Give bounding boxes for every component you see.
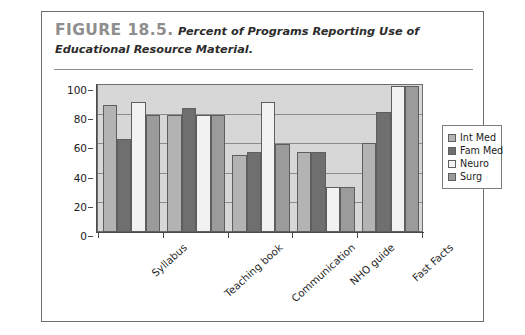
x-axis-tick-label: Communication [289, 241, 357, 304]
bar [362, 143, 376, 232]
y-axis-tick-mark [88, 236, 93, 237]
bar-group [229, 86, 294, 232]
y-axis-tick-mark [88, 148, 93, 149]
y-axis-tick-mark [88, 178, 93, 179]
plot-background [97, 84, 423, 232]
bar [232, 155, 246, 232]
bar-chart: 020406080100 SyllabusTeaching bookCommun… [55, 78, 472, 308]
bar [376, 112, 390, 232]
figure-number: FIGURE 18.5. [55, 21, 174, 39]
figure-frame: FIGURE 18.5. Percent of Programs Reporti… [41, 11, 484, 322]
y-axis-tick-label: 40 [74, 172, 87, 184]
y-axis-tick-label: 80 [74, 113, 87, 125]
bar [211, 115, 225, 232]
y-axis-tick-label: 0 [80, 230, 87, 242]
y-axis-tick-label: 60 [74, 142, 87, 154]
legend-label: Int Med [460, 132, 496, 143]
y-axis-tick-mark [88, 90, 93, 91]
bar [117, 139, 131, 232]
bar [391, 86, 405, 232]
chart-legend: Int MedFam MedNeuroSurg [442, 125, 502, 189]
bar [326, 187, 340, 232]
bar [261, 102, 275, 232]
bar-group [358, 86, 423, 232]
x-axis-line [97, 232, 424, 233]
x-axis-tick-mark [422, 233, 423, 238]
bar [247, 152, 261, 232]
bar-group [293, 86, 358, 232]
bar [167, 115, 181, 232]
y-axis: 020406080100 [55, 84, 93, 232]
bar [146, 115, 160, 232]
bar [103, 105, 117, 232]
legend-item: Fam Med [448, 144, 497, 157]
bar [275, 144, 289, 232]
bar [405, 86, 419, 232]
legend-swatch-icon [448, 160, 456, 168]
legend-item: Int Med [448, 131, 497, 144]
bar-group [164, 86, 229, 232]
x-axis-tick-mark [357, 233, 358, 238]
x-axis-tick-mark [292, 233, 293, 238]
x-axis-tick-mark [228, 233, 229, 238]
legend-item: Surg [448, 170, 497, 183]
y-axis-tick-label: 100 [67, 84, 87, 96]
x-axis-tick-mark [98, 233, 99, 238]
bars-layer [99, 86, 423, 232]
y-axis-tick-mark [88, 119, 93, 120]
x-axis-tick-label: Fast Facts [410, 241, 455, 284]
plot-area [97, 84, 423, 232]
bar-group [99, 86, 164, 232]
legend-swatch-icon [448, 173, 456, 181]
y-axis-tick-mark [88, 207, 93, 208]
y-axis-tick-label: 20 [74, 201, 87, 213]
figure-caption: FIGURE 18.5. Percent of Programs Reporti… [55, 21, 473, 57]
caption-divider [54, 69, 473, 70]
bar [311, 152, 325, 232]
legend-label: Surg [460, 171, 482, 182]
legend-label: Fam Med [460, 145, 503, 156]
x-axis-tick-label: Syllabus [149, 241, 189, 279]
bar [182, 108, 196, 232]
legend-item: Neuro [448, 157, 497, 170]
legend-swatch-icon [448, 134, 456, 142]
legend-label: Neuro [460, 158, 489, 169]
bar [340, 187, 354, 232]
legend-swatch-icon [448, 147, 456, 155]
bar [297, 152, 311, 232]
x-axis-tick-label: Teaching book [222, 241, 285, 299]
bar [131, 102, 145, 232]
x-axis-tick-mark [163, 233, 164, 238]
bar [196, 115, 210, 232]
